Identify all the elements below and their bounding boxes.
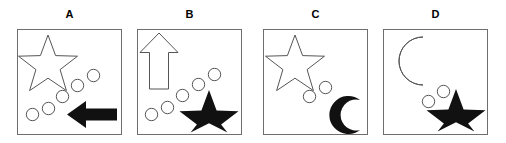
panel-a[interactable] xyxy=(17,29,122,135)
dot-5-icon xyxy=(208,68,220,80)
panel-label-d: D xyxy=(383,8,488,21)
dot-1-icon xyxy=(422,95,434,107)
dot-2-icon xyxy=(42,102,54,114)
dot-2-icon xyxy=(161,101,173,113)
arrow-up-icon xyxy=(140,33,178,89)
arrow-left-icon xyxy=(67,101,117,128)
star-icon xyxy=(427,89,486,132)
star-outline-icon xyxy=(266,35,325,91)
dot-1-icon xyxy=(145,108,157,120)
star-outline-icon xyxy=(19,35,78,91)
panel-label-c: C xyxy=(263,8,368,21)
panel-b[interactable] xyxy=(137,29,242,135)
panel-c[interactable] xyxy=(263,29,368,135)
panel-d-canvas xyxy=(384,30,487,134)
crescent-moon-outline-icon xyxy=(399,37,423,85)
crescent-moon-icon xyxy=(329,96,360,134)
panel-label-a: A xyxy=(17,8,122,21)
panel-b-canvas xyxy=(138,30,241,134)
panel-c-canvas xyxy=(264,30,367,134)
dot-3-icon xyxy=(176,89,188,101)
panel-a-canvas xyxy=(18,30,121,134)
dot-1-icon xyxy=(26,108,38,120)
dot-2-icon xyxy=(319,81,331,93)
panel-d[interactable] xyxy=(383,29,488,135)
shape-panels-figure: A B C xyxy=(0,0,506,143)
dot-1-icon xyxy=(303,90,315,102)
dot-4-icon xyxy=(71,79,83,91)
dot-2-icon xyxy=(437,85,449,97)
panel-label-b: B xyxy=(137,8,242,21)
dot-5-icon xyxy=(87,69,99,81)
dot-4-icon xyxy=(192,78,204,90)
dot-3-icon xyxy=(56,90,68,102)
